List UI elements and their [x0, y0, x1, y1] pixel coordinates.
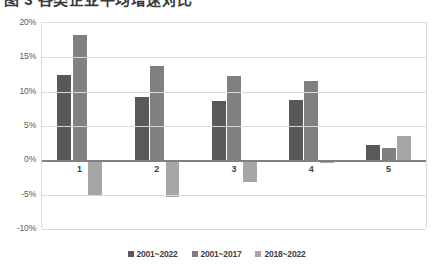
chart-legend: 2001~20222001~20172018~2022 [0, 249, 433, 259]
bar [166, 160, 180, 196]
bar [88, 160, 102, 196]
bar [135, 97, 149, 160]
x-axis-tick-label: 5 [386, 164, 391, 174]
gridline [42, 57, 426, 58]
legend-item[interactable]: 2001~2017 [192, 249, 242, 259]
x-axis-tick-label: 3 [231, 164, 236, 174]
zero-line [42, 160, 426, 162]
gridline [42, 229, 426, 230]
legend-label: 2001~2017 [201, 249, 242, 259]
bar [397, 136, 411, 161]
bar [73, 35, 87, 161]
legend-label: 2001~2022 [137, 249, 178, 259]
bar [289, 100, 303, 160]
legend-label: 2018~2022 [264, 249, 305, 259]
bar-chart: 图 3 各类企业平均增速对比 20%15%10%5%0%-5%-10% 1234… [0, 0, 433, 275]
gridline [42, 195, 426, 196]
legend-swatch-icon [255, 251, 261, 257]
bar [227, 76, 241, 160]
legend-swatch-icon [128, 251, 134, 257]
x-axis-tick-label: 1 [77, 164, 82, 174]
legend-swatch-icon [192, 251, 198, 257]
legend-item[interactable]: 2018~2022 [255, 249, 305, 259]
gridline [42, 92, 426, 93]
plot-area [41, 22, 427, 228]
bar [57, 75, 71, 161]
bar [243, 160, 257, 181]
y-axis-tick-label: 15% [20, 51, 36, 61]
x-axis-tick-label: 4 [309, 164, 314, 174]
gridline [42, 126, 426, 127]
bar [150, 66, 164, 161]
y-axis-tick-label: 0% [24, 154, 36, 164]
x-axis-tick-label: 2 [154, 164, 159, 174]
y-axis-tick-label: -10% [17, 223, 36, 233]
bar [212, 101, 226, 160]
bar [366, 145, 380, 160]
y-axis-tick-label: -5% [21, 189, 36, 199]
y-axis-tick-label: 5% [24, 120, 36, 130]
legend-item[interactable]: 2001~2022 [128, 249, 178, 259]
y-axis-tick-label: 10% [20, 86, 36, 96]
bar [382, 148, 396, 160]
y-axis-labels: 20%15%10%5%0%-5%-10% [0, 0, 40, 275]
chart-title-strip: 图 3 各类企业平均增速对比 [0, 0, 433, 11]
y-axis-tick-label: 20% [20, 17, 36, 27]
